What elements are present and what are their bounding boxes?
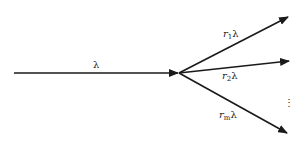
- input-label: λ: [93, 59, 100, 70]
- split-flow-diagram: λ r1λ r2λ ⋮ rmλ: [0, 0, 300, 145]
- branch-arrow-m: [179, 73, 287, 133]
- branch-label-1: r1λ: [223, 28, 239, 41]
- branch-label-m: rmλ: [219, 109, 237, 122]
- branch-ellipsis: ⋮: [284, 97, 294, 108]
- branch-label-2: r2λ: [222, 70, 238, 83]
- branch-arrow-1: [179, 17, 288, 73]
